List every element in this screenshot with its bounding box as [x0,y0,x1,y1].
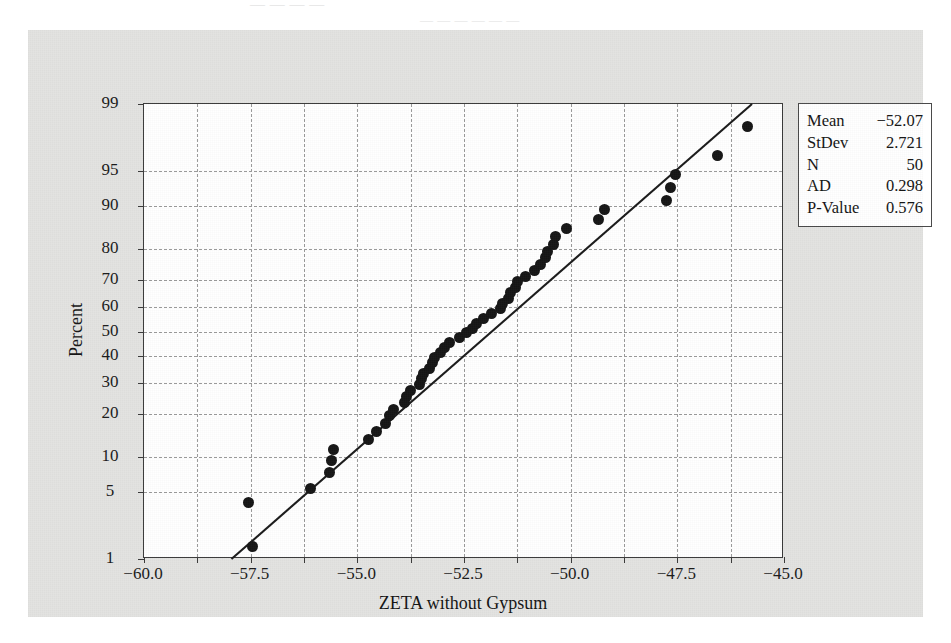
x-axis-tick-label: −52.5 [443,564,482,584]
data-point [324,467,335,478]
legend-key: StDev [807,132,848,154]
y-axis-tick [138,457,144,458]
y-axis-tick-label: 99 [102,93,119,113]
y-axis-tick [138,104,144,105]
x-axis-tick [251,557,252,563]
x-axis-tick-label: −60.0 [123,564,162,584]
y-axis-tick-label: 30 [102,372,119,392]
y-axis-tick [138,280,144,281]
y-axis-tick [138,414,144,415]
plot-panel [143,103,783,558]
x-axis-tick [517,557,518,563]
data-point [444,337,455,348]
x-axis-tick-label: −50.0 [550,564,589,584]
y-axis-tick [138,249,144,250]
y-axis-tick-label: 10 [102,446,119,466]
y-axis-tick-label: 5 [106,481,115,501]
legend-row: Mean−52.07 [807,110,923,132]
bleed-through-text-top: — — — — [250,0,325,13]
y-axis-tick-label: 60 [102,296,119,316]
data-point [363,434,374,445]
x-axis-tick [677,557,678,563]
statistics-legend: Mean−52.07StDev2.721N50AD0.298P-Value0.5… [798,103,932,227]
x-axis-tick-label: −55.0 [337,564,376,584]
data-point [326,455,337,466]
x-axis-title: ZETA without Gypsum [379,593,548,614]
y-axis-tick-label: 50 [102,321,119,341]
data-point [661,195,672,206]
data-point [305,483,316,494]
y-axis-tick [138,332,144,333]
x-axis-tick [197,557,198,563]
y-axis-tick-label: 20 [102,403,119,423]
x-axis-tick-label: −57.5 [230,564,269,584]
y-axis-tick [138,171,144,172]
figure-plate: 151020304050607080909599−60.0−57.5−55.0−… [28,30,923,617]
y-axis-title: Percent [66,303,87,357]
x-axis-tick [304,557,305,563]
y-axis-tick [138,356,144,357]
legend-row: P-Value0.576 [807,197,923,219]
data-point [561,223,572,234]
x-axis-tick [731,557,732,563]
legend-value: −52.07 [871,110,923,132]
y-axis-tick-label: 90 [102,195,119,215]
x-axis-tick [357,557,358,563]
y-axis-tick [138,383,144,384]
legend-key: Mean [807,110,845,132]
x-axis-tick [464,557,465,563]
x-axis-tick [144,557,145,563]
x-axis-tick [571,557,572,563]
legend-value: 0.576 [880,197,923,219]
x-axis-tick [624,557,625,563]
y-axis-tick-label: 70 [102,269,119,289]
legend-key: AD [807,175,831,197]
legend-row: AD0.298 [807,175,923,197]
y-axis-tick-label: 1 [106,548,115,568]
y-axis-tick-label: 40 [102,345,119,365]
data-point [371,426,382,437]
data-point [670,169,681,180]
x-axis-tick [784,557,785,563]
legend-key: N [807,154,819,176]
y-axis-tick [138,206,144,207]
y-axis-tick-label: 80 [102,238,119,258]
bleed-through-text-second: — — — — — — [420,12,520,28]
legend-row: StDev2.721 [807,132,923,154]
x-axis-tick-label: −45.0 [763,564,802,584]
legend-value: 50 [901,154,924,176]
legend-key: P-Value [807,197,859,219]
y-axis-tick [138,307,144,308]
legend-value: 0.298 [880,175,923,197]
legend-row: N50 [807,154,923,176]
x-axis-tick-label: −47.5 [657,564,696,584]
data-point [593,214,604,225]
y-axis-tick [138,492,144,493]
y-axis-tick [138,559,144,560]
figure-page: — — — — — — — — — — 15102030405060708090… [0,0,951,643]
data-point [388,404,399,415]
y-axis-tick-label: 95 [102,160,119,180]
legend-value: 2.721 [880,132,923,154]
x-axis-tick [411,557,412,563]
